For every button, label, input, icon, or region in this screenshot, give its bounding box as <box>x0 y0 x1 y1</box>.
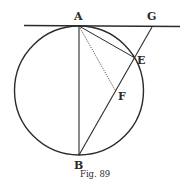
point-label-F: F <box>118 90 126 103</box>
tangent-line <box>24 26 180 27</box>
chord-AE <box>79 26 135 58</box>
line-BG <box>79 27 152 155</box>
figure-caption: Fig. 89 <box>80 169 110 179</box>
point-label-G: G <box>147 10 156 23</box>
point-label-E: E <box>137 54 145 67</box>
geometry-figure: A G E F B Fig. 89 <box>0 0 196 192</box>
perpendicular-AF <box>79 26 115 90</box>
point-label-A: A <box>73 10 83 23</box>
